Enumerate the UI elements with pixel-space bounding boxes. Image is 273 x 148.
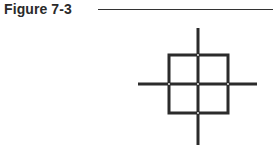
junction-dot bbox=[197, 83, 199, 85]
junction-dot bbox=[197, 54, 199, 56]
junction-dot bbox=[168, 83, 170, 85]
junction-dot bbox=[227, 83, 229, 85]
junction-dot bbox=[197, 112, 199, 114]
crosshair-grid-diagram bbox=[0, 0, 273, 148]
